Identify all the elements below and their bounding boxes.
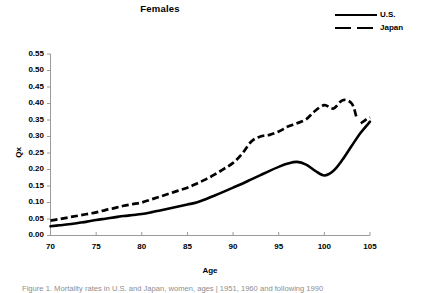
data-series-group bbox=[51, 100, 371, 226]
series-line-us bbox=[51, 122, 371, 227]
axes bbox=[47, 54, 370, 236]
x-axis-ticks bbox=[51, 232, 371, 236]
figure-caption: Figure 1. Mortality rates in U.S. and Ja… bbox=[22, 284, 422, 293]
series-line-japan bbox=[51, 100, 357, 221]
y-axis-ticks bbox=[47, 54, 51, 236]
